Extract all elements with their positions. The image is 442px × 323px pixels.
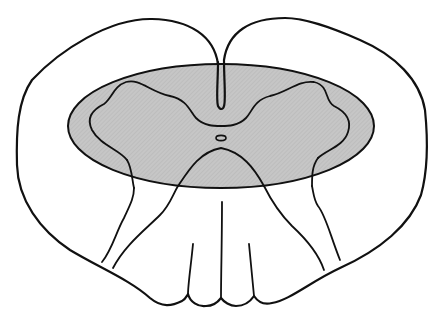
ventral-left-fissure	[188, 244, 193, 294]
left-lateral-line-outer	[102, 188, 134, 262]
spinal-cord-cross-section-diagram	[0, 0, 442, 323]
left-lateral-line-inner	[113, 186, 178, 268]
ventral-median-fissure	[221, 202, 222, 298]
right-lateral-line-outer	[312, 186, 340, 260]
ventral-right-fissure	[249, 244, 254, 296]
